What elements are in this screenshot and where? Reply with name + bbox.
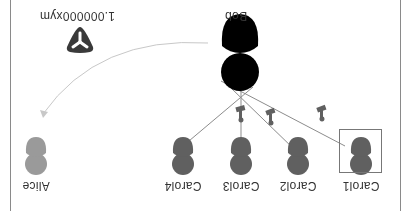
recipient-carol2-figure bbox=[287, 137, 309, 175]
sender-bob-figure bbox=[221, 14, 259, 91]
recipient-carol3-figure bbox=[230, 137, 252, 175]
symbol-mosaic-icon bbox=[67, 27, 93, 53]
target-label-alice: Alice bbox=[0, 179, 76, 193]
sender-label: Bob bbox=[196, 9, 276, 23]
signature-stamp-icon bbox=[235, 105, 245, 122]
transfer-arrow-head bbox=[40, 110, 48, 118]
recipient-carol4-figure bbox=[172, 137, 194, 175]
recipient-label-carol4: Carol4 bbox=[143, 179, 223, 193]
target-alice-figure bbox=[25, 137, 47, 175]
multisig-diagram: Bob Carol1 Carol2 Carol3 Carol4 Alice 1.… bbox=[0, 0, 408, 211]
signature-stamp-icon bbox=[316, 105, 326, 122]
transfer-amount-label: 1.000000xym bbox=[40, 9, 115, 23]
recipient-carol1-selection[interactable] bbox=[339, 129, 382, 173]
transfer-arrow bbox=[43, 42, 208, 114]
